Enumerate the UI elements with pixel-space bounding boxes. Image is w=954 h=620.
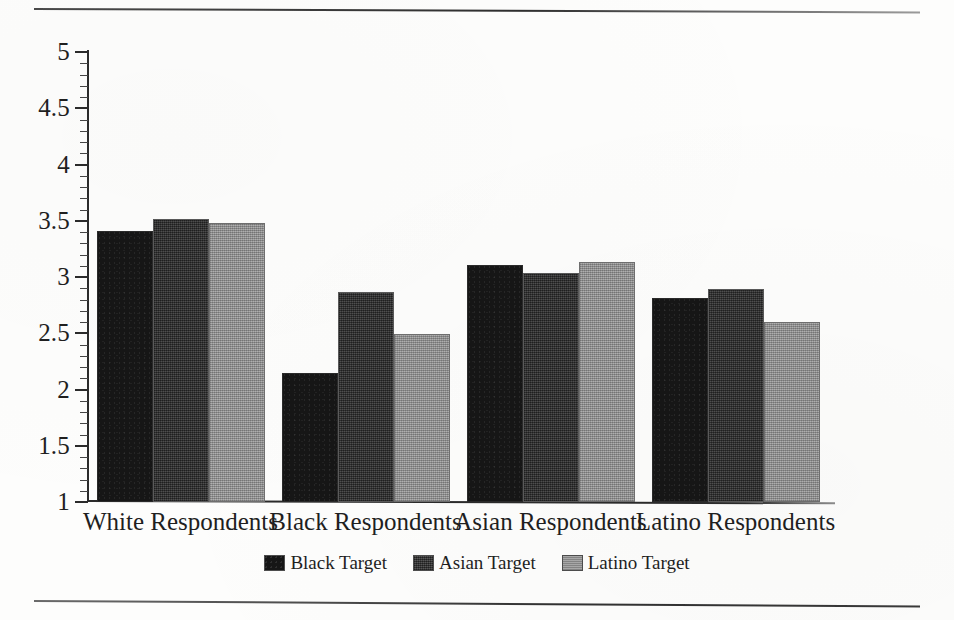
y-axis-tick-minor (80, 75, 88, 76)
y-axis-tick-label: 4 (6, 152, 70, 177)
y-axis-tick-minor (80, 401, 88, 402)
y-axis-tick-label: 5 (6, 39, 70, 64)
y-axis-tick-minor (80, 266, 88, 267)
bar-asian-respondents-latino-target (579, 262, 635, 502)
y-axis-tick-minor (80, 300, 88, 301)
y-axis-tick-minor (80, 142, 88, 143)
y-axis-tick-major (75, 332, 88, 334)
y-axis-tick-minor (80, 187, 88, 188)
y-axis-tick-minor (80, 63, 88, 64)
legend-label: Latino Target (588, 553, 690, 572)
legend-swatch-icon (264, 555, 285, 571)
legend-item-black-target[interactable]: Black Target (264, 553, 387, 572)
y-axis-tick-minor (80, 131, 88, 132)
grouped-bar-chart: 11.522.533.544.55 White RespondentsBlack… (0, 0, 954, 620)
y-axis-tick-minor (80, 322, 88, 323)
x-axis-label-latino-respondents: Latino Respondents (586, 508, 886, 536)
y-axis-tick-minor (80, 412, 88, 413)
y-axis-tick-minor (80, 210, 88, 211)
y-axis-tick-label: 2.5 (6, 320, 70, 345)
y-axis-tick-label: 1.5 (6, 433, 70, 458)
y-axis-tick-minor (80, 255, 88, 256)
y-axis-tick-label: 3 (6, 264, 70, 289)
y-axis-tick-minor (80, 457, 88, 458)
y-axis-tick-minor (80, 423, 88, 424)
y-axis-tick-major (75, 51, 88, 53)
legend-swatch-icon (562, 555, 583, 571)
y-axis-tick-minor (80, 198, 88, 199)
y-axis-tick-minor (80, 435, 88, 436)
y-axis-tick-major (75, 389, 88, 391)
y-axis-tick-label: 4.5 (6, 95, 70, 120)
y-axis-tick-minor (80, 120, 88, 121)
legend-item-latino-target[interactable]: Latino Target (562, 553, 690, 572)
bar-white-respondents-asian-target (153, 219, 209, 503)
y-axis-tick-major (75, 220, 88, 222)
legend-swatch-icon (413, 555, 434, 571)
legend-label: Black Target (290, 553, 387, 572)
bar-white-respondents-latino-target (209, 223, 265, 502)
y-axis-tick-minor (80, 491, 88, 492)
legend-item-asian-target[interactable]: Asian Target (413, 553, 536, 572)
y-axis-tick-minor (80, 288, 88, 289)
bar-black-respondents-asian-target (338, 292, 394, 502)
y-axis-tick-minor (80, 378, 88, 379)
y-axis-tick-minor (80, 176, 88, 177)
y-axis-tick-label: 3.5 (6, 208, 70, 233)
y-axis-tick-major (75, 107, 88, 109)
y-axis-tick-minor (80, 356, 88, 357)
bar-black-respondents-latino-target (394, 334, 450, 502)
bar-latino-respondents-latino-target (764, 322, 820, 502)
y-axis-tick-minor (80, 232, 88, 233)
y-axis-tick-major (75, 276, 88, 278)
y-axis-tick-minor (80, 367, 88, 368)
y-axis-tick-label: 2 (6, 377, 70, 402)
y-axis-tick-minor (80, 468, 88, 469)
y-axis-tick-major (75, 501, 88, 503)
plot-area (88, 52, 828, 502)
y-axis-tick-minor (80, 345, 88, 346)
bar-white-respondents-black-target (97, 231, 153, 502)
bar-latino-respondents-black-target (652, 298, 708, 502)
y-axis-tick-major (75, 445, 88, 447)
y-axis-tick-minor (80, 86, 88, 87)
y-axis-tick-minor (80, 243, 88, 244)
y-axis-tick-major (75, 164, 88, 166)
bar-latino-respondents-asian-target (708, 289, 764, 502)
y-axis-tick-minor (80, 153, 88, 154)
y-axis-tick-minor (80, 480, 88, 481)
bar-asian-respondents-asian-target (523, 273, 579, 503)
chart-legend: Black TargetAsian TargetLatino Target (0, 553, 954, 572)
bar-asian-respondents-black-target (467, 265, 523, 502)
bar-black-respondents-black-target (282, 373, 338, 502)
y-axis-tick-minor (80, 311, 88, 312)
legend-label: Asian Target (439, 553, 536, 572)
y-axis-tick-minor (80, 97, 88, 98)
